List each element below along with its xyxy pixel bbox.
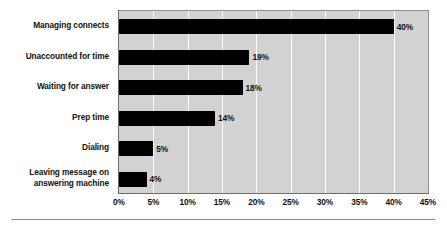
bar [119,141,153,156]
bar-value-label: 4% [150,174,162,184]
bar-value-label: 18% [246,83,262,93]
bar-row: 18% [119,80,262,95]
plot-area: 40% 19% 18% 14% 5% 4% [119,10,429,194]
bar-row: 5% [119,141,168,156]
category-label: Prep time [72,112,113,123]
bar [119,50,249,65]
x-tick-label: 30% [317,197,333,207]
bars-layer: 40% 19% 18% 14% 5% 4% [119,11,428,194]
x-tick-label: 10% [180,197,196,207]
bar-chart-figure: Managing connects Unaccounted for time W… [0,0,447,232]
x-axis-tick-labels: 0% 5% 10% 15% 20% 25% 30% 35% 40% 45% [119,197,428,211]
x-tick-label: 5% [147,197,159,207]
x-axis-line [118,193,429,194]
bar-value-label: 14% [218,113,234,123]
bar-value-label: 5% [156,144,168,154]
x-tick-label: 0% [113,197,125,207]
x-tick-label: 45% [420,197,436,207]
category-label: Dialing [82,142,113,153]
category-tick-5: Leaving message on answering machine [0,163,113,194]
bar [119,19,394,34]
category-axis: Managing connects Unaccounted for time W… [0,10,113,193]
y-axis-line [118,10,119,194]
category-tick-0: Managing connects [0,10,113,41]
x-tick-label: 25% [283,197,299,207]
bar-value-label: 40% [397,22,413,32]
bar [119,80,243,95]
category-tick-3: Prep time [0,102,113,133]
horizontal-rule [12,219,435,220]
category-label: Waiting for answer [37,81,113,92]
bar-row: 19% [119,50,269,65]
category-label: Leaving message on answering machine [29,167,113,188]
bar-row: 4% [119,172,161,187]
bar [119,172,147,187]
category-tick-1: Unaccounted for time [0,41,113,72]
x-tick-label: 35% [351,197,367,207]
category-label: Managing connects [33,20,113,31]
bar [119,111,215,126]
x-tick-label: 15% [214,197,230,207]
bar-row: 14% [119,111,234,126]
category-label: Unaccounted for time [26,51,113,62]
bar-value-label: 19% [252,52,268,62]
bar-row: 40% [119,19,413,34]
category-tick-2: Waiting for answer [0,71,113,102]
x-tick-label: 40% [386,197,402,207]
category-tick-4: Dialing [0,132,113,163]
x-tick-label: 20% [248,197,264,207]
